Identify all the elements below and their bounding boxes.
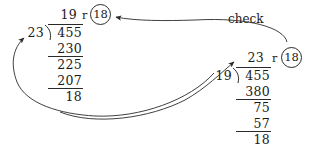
left-step-2: 207 bbox=[50, 75, 82, 88]
diagram-canvas: 19 r 18 23 455 230 225 207 18 23 r 1 bbox=[0, 0, 314, 150]
left-remainder-circle: 18 bbox=[90, 4, 111, 25]
left-step-3: 18 bbox=[50, 91, 82, 104]
quotient-to-divisor-arrow bbox=[60, 62, 234, 119]
divisor-return-arrow bbox=[13, 38, 214, 116]
right-quotient: 23 bbox=[242, 52, 264, 65]
left-quotient: 19 bbox=[55, 9, 77, 22]
right-step-3: 18 bbox=[238, 134, 270, 147]
left-dividend: 455 bbox=[50, 27, 82, 40]
right-divisor: 19 bbox=[210, 70, 232, 83]
check-label: check bbox=[228, 13, 264, 25]
right-dividend: 455 bbox=[238, 70, 270, 83]
right-remainder-circle: 18 bbox=[281, 47, 302, 68]
right-step-0: 380 bbox=[238, 86, 270, 99]
right-remainder-marker: r bbox=[272, 53, 277, 64]
left-divisor: 23 bbox=[22, 27, 44, 40]
right-step-2: 57 bbox=[238, 118, 270, 131]
left-remainder-marker: r bbox=[82, 10, 87, 21]
left-step-1: 225 bbox=[50, 59, 82, 72]
right-step-1: 75 bbox=[238, 102, 270, 115]
left-step-0: 230 bbox=[50, 43, 82, 56]
